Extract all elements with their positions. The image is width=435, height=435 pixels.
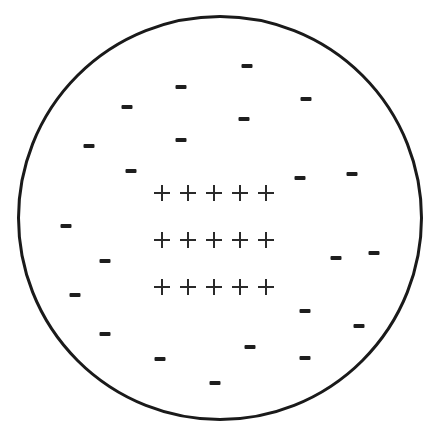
positive-charge-icon — [154, 185, 170, 201]
negative-charge-icon — [176, 138, 187, 142]
negative-charge-icon — [155, 357, 166, 361]
positive-charge-icon — [232, 185, 248, 201]
positive-charge-icon — [154, 232, 170, 248]
positive-charge-icon — [206, 185, 222, 201]
negative-charge-icon — [100, 332, 111, 336]
negative-charge-icon — [176, 85, 187, 89]
negative-charge-icon — [300, 356, 311, 360]
positive-charge-icon — [258, 279, 274, 295]
positive-charge-icon — [232, 279, 248, 295]
negative-charge-icon — [126, 169, 137, 173]
negative-charge-icon — [347, 172, 358, 176]
negative-charge-icon — [122, 105, 133, 109]
negative-charge-icon — [70, 293, 81, 297]
negative-charge-icon — [331, 256, 342, 260]
positive-charge-icon — [232, 232, 248, 248]
negative-charge-icon — [301, 97, 312, 101]
charge-distribution-diagram — [0, 0, 435, 435]
positive-charge-icon — [258, 232, 274, 248]
negative-charge-icon — [300, 309, 311, 313]
positive-charge-icon — [180, 185, 196, 201]
negative-charge-icon — [210, 381, 221, 385]
positive-charge-icon — [180, 279, 196, 295]
negative-charge-icon — [245, 345, 256, 349]
positive-charge-icon — [180, 232, 196, 248]
negative-charge-icon — [354, 324, 365, 328]
negative-charge-icon — [295, 176, 306, 180]
negative-charge-icon — [369, 251, 380, 255]
positive-charge-icon — [154, 279, 170, 295]
negative-charge-icon — [239, 117, 250, 121]
negative-charge-icon — [61, 224, 72, 228]
negative-charge-icon — [84, 144, 95, 148]
positive-charge-icon — [258, 185, 274, 201]
boundary-circle — [17, 15, 423, 421]
positive-charge-icon — [206, 232, 222, 248]
negative-charge-icon — [242, 64, 253, 68]
negative-charge-icon — [100, 259, 111, 263]
positive-charge-icon — [206, 279, 222, 295]
